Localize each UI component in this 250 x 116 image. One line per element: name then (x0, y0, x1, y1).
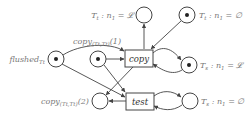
arc-tt-empty-to-copy (151, 21, 181, 49)
place-copy1 (90, 51, 106, 67)
place-circle (92, 93, 108, 109)
token (54, 57, 58, 61)
transition-copy: copy (125, 50, 153, 67)
label-tt-L: Tt : n1 = 𝓛 (91, 11, 135, 21)
label-flushed: flushedTt (9, 55, 46, 65)
label-ts-L: Ts : n1 = 𝓛 (200, 61, 244, 71)
place-tt-empty (179, 7, 195, 23)
label-copy2: copy(Tt,Tt)(2) (41, 97, 89, 107)
token (185, 13, 189, 17)
label-copy1: copy(Tt,Tt)(1) (73, 37, 121, 47)
token (187, 63, 191, 67)
place-copy2 (92, 93, 108, 109)
arc-ts-empty-to-test (154, 105, 182, 110)
arc-test-to-ts-empty (154, 92, 181, 97)
arc-copy-to-ts-L (153, 49, 181, 60)
place-circle (182, 93, 198, 109)
transition-test: test (126, 93, 154, 110)
place-circle (136, 7, 152, 23)
place-tt-L (136, 7, 152, 23)
place-flushed (48, 51, 64, 67)
token (96, 57, 100, 61)
arc-copy-to-copy2 (106, 67, 133, 95)
label-ts-empty: Ts : n1 = ∅ (201, 97, 245, 107)
label-tt-empty: Tt : n1 = ∅ (199, 11, 243, 21)
place-ts-L (181, 57, 197, 73)
place-ts-empty (182, 93, 198, 109)
arc-ts-L-to-copy (153, 64, 182, 72)
petri-net-diagram: copy test Tt : n1 = 𝓛 Tt : n1 = ∅ flushe… (0, 0, 250, 116)
transition-label: copy (129, 54, 149, 64)
transition-label: test (132, 97, 149, 107)
